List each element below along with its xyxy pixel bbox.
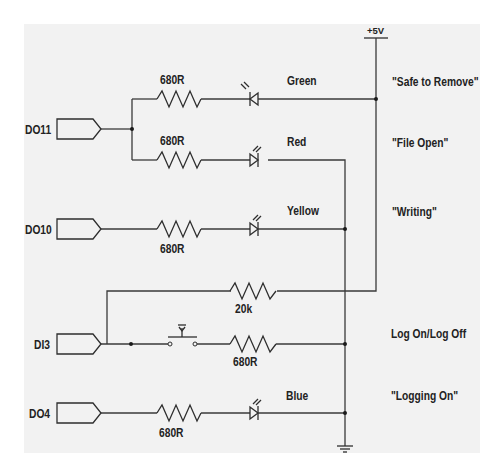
signal-meaning-label: "Writing" bbox=[392, 205, 437, 218]
port-connector-icon bbox=[57, 119, 101, 139]
signal-meaning-label: Log On/Log Off bbox=[391, 327, 466, 340]
ground-icon bbox=[337, 446, 353, 452]
port-label: DI3 bbox=[34, 338, 50, 351]
led-label: Red bbox=[287, 135, 306, 148]
port-di3: DI3 bbox=[34, 334, 101, 354]
signal-meaning-label: "Logging On" bbox=[391, 389, 458, 402]
supply-label: +5V bbox=[367, 25, 385, 36]
junction-dot bbox=[374, 97, 378, 101]
branch-pullup: 20k bbox=[230, 283, 277, 315]
branch-blue: 680R Blue "Logging On" bbox=[101, 389, 458, 439]
led-label: Blue bbox=[286, 389, 308, 402]
port-connector-icon bbox=[57, 219, 101, 239]
port-label: DO10 bbox=[25, 223, 52, 236]
branch-green: 680R Green "Safe to Remove" bbox=[132, 73, 479, 107]
led-label: Green bbox=[287, 74, 317, 87]
port-do4: DO4 bbox=[29, 403, 101, 423]
circuit-schematic: +5V DO11 DO10 DI3 DO4 680R bbox=[0, 0, 503, 475]
resistor-icon bbox=[157, 405, 201, 421]
junction-dot bbox=[130, 127, 134, 131]
supply-terminal: +5V bbox=[364, 25, 388, 38]
branch-yellow: 680R Yellow "Writing" bbox=[101, 204, 437, 255]
pushbutton-switch-icon bbox=[168, 325, 197, 346]
port-label: DO4 bbox=[29, 407, 51, 420]
junction-dot bbox=[129, 342, 133, 346]
resistor-label: 680R bbox=[160, 73, 185, 86]
port-connector-icon bbox=[57, 334, 101, 354]
port-label: DO11 bbox=[25, 123, 52, 136]
port-connector-icon bbox=[57, 403, 101, 423]
branch-switch: 680R Log On/Log Off bbox=[101, 325, 466, 368]
resistor-label: 680R bbox=[160, 242, 185, 255]
junction-dot bbox=[343, 411, 347, 415]
port-do11: DO11 bbox=[25, 119, 101, 139]
led-icon bbox=[241, 82, 258, 106]
led-label: Yellow bbox=[287, 204, 319, 217]
resistor-icon bbox=[230, 336, 276, 352]
junction-dot bbox=[343, 342, 347, 346]
led-icon bbox=[250, 399, 261, 420]
resistor-icon bbox=[157, 152, 201, 168]
resistor-label: 680R bbox=[233, 355, 258, 368]
resistor-icon bbox=[157, 221, 201, 237]
resistor-label: 680R bbox=[160, 134, 185, 147]
port-do10: DO10 bbox=[25, 219, 101, 239]
resistor-label: 20k bbox=[235, 302, 253, 315]
junction-dot bbox=[343, 227, 347, 231]
resistor-icon bbox=[157, 91, 201, 107]
led-icon bbox=[250, 146, 261, 167]
signal-meaning-label: "File Open" bbox=[392, 136, 448, 149]
branch-red: 680R Red "File Open" bbox=[132, 134, 448, 168]
resistor-label: 680R bbox=[159, 426, 184, 439]
led-icon bbox=[250, 215, 261, 236]
signal-meaning-label: "Safe to Remove" bbox=[392, 75, 479, 88]
ground-rail-wire bbox=[268, 160, 345, 446]
